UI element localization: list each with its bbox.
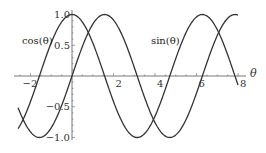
trig-plot: −22468−1.0−0.50.51.0 cos(θ) sin(θ) θ: [0, 0, 266, 153]
y-tick-label: −1.0: [46, 132, 70, 143]
chart-container: −22468−1.0−0.50.51.0 cos(θ) sin(θ) θ: [0, 0, 266, 153]
x-tick-label: 8: [240, 78, 246, 89]
cos-series-label: cos(θ): [22, 35, 53, 46]
sin-series-label: sin(θ): [151, 35, 180, 46]
axes: [14, 10, 246, 140]
x-axis-label: θ: [250, 67, 257, 80]
y-tick-label: 0.5: [54, 40, 70, 51]
x-tick-label: 4: [157, 78, 163, 89]
y-tick-label: −0.5: [46, 101, 70, 112]
x-tick-label: 6: [199, 78, 205, 89]
y-tick-label: 1.0: [54, 9, 70, 20]
x-tick-label: −2: [23, 78, 38, 89]
x-tick-label: 2: [116, 78, 122, 89]
